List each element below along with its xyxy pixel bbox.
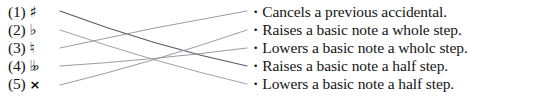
- list-item[interactable]: (1) ♯: [8, 3, 70, 21]
- list-item[interactable]: • Raises a basic note a half step.: [253, 57, 448, 75]
- definitions-column: • Cancels a previous accidental. • Raise…: [253, 0, 549, 103]
- list-item[interactable]: (2) ♭: [8, 21, 70, 39]
- exercise-page: (1) ♯ (2) ♭ (3) ♮ (4) ♭♭ (5) × • Cancels…: [0, 0, 549, 103]
- definition-label: Raises a basic note a half step.: [262, 58, 448, 74]
- definition-label: Cancels a previous accidental.: [262, 4, 447, 20]
- definition-label: Raises a basic note a whole step.: [262, 22, 461, 38]
- item-number: (4): [8, 58, 25, 74]
- definition-label: Lowers a basic note a half step.: [262, 76, 454, 92]
- natural-icon: ♮: [29, 41, 34, 56]
- list-item[interactable]: • Lowers a basic note a half step.: [253, 75, 454, 93]
- list-item[interactable]: • Raises a basic note a whole step.: [253, 21, 462, 39]
- list-item[interactable]: (5) ×: [8, 75, 70, 93]
- item-number: (2): [8, 22, 25, 38]
- connector-line: [60, 48, 247, 66]
- definition-label: Lowers a basic note a wholc step.: [262, 40, 467, 56]
- list-item[interactable]: (4) ♭♭: [8, 57, 70, 75]
- connector-line: [60, 11, 247, 48]
- bullet-icon: •: [253, 8, 258, 17]
- bullet-icon: •: [253, 26, 258, 35]
- item-number: (3): [8, 40, 25, 56]
- flat-icon: ♭: [29, 23, 36, 38]
- double-flat-icon: ♭♭: [29, 59, 35, 74]
- list-item[interactable]: • Cancels a previous accidental.: [253, 3, 447, 21]
- sharp-icon: ♯: [29, 5, 36, 20]
- double-sharp-icon: ×: [29, 78, 40, 91]
- bullet-icon: •: [253, 62, 258, 71]
- bullet-icon: •: [253, 44, 258, 53]
- accidentals-column: (1) ♯ (2) ♭ (3) ♮ (4) ♭♭ (5) ×: [8, 0, 70, 103]
- item-number: (1): [8, 4, 25, 20]
- connector-line: [60, 30, 247, 84]
- connector-line: [60, 30, 247, 85]
- list-item[interactable]: • Lowers a basic note a wholc step.: [253, 39, 468, 57]
- list-item[interactable]: (3) ♮: [8, 39, 70, 57]
- bullet-icon: •: [253, 80, 258, 89]
- item-number: (5): [8, 76, 25, 92]
- connector-line: [60, 11, 247, 66]
